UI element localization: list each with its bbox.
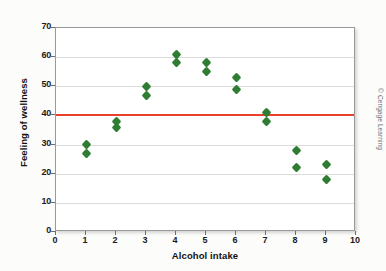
x-tick-label: 1: [75, 235, 95, 245]
x-tick-label: 10: [345, 235, 365, 245]
figure-root: 010203040506070 012345678910 Alcohol int…: [0, 0, 386, 271]
x-tick-mark: [115, 231, 116, 235]
x-tick-mark: [355, 231, 356, 235]
x-tick-label: 3: [135, 235, 155, 245]
x-tick-mark: [295, 231, 296, 235]
x-tick-label: 5: [195, 235, 215, 245]
x-tick-mark: [325, 231, 326, 235]
x-tick-label: 7: [255, 235, 275, 245]
credit-line: © Cengage Learning: [377, 88, 384, 150]
x-tick-label: 2: [105, 235, 125, 245]
x-tick-label: 4: [165, 235, 185, 245]
x-tick-label: 0: [45, 235, 65, 245]
x-tick-mark: [55, 231, 56, 235]
x-tick-mark: [205, 231, 206, 235]
x-tick-label: 8: [285, 235, 305, 245]
x-tick-mark: [85, 231, 86, 235]
x-tick-mark: [265, 231, 266, 235]
x-tick-mark: [235, 231, 236, 235]
x-axis-title: Alcohol intake: [55, 250, 355, 261]
x-tick-mark: [145, 231, 146, 235]
y-axis-title: Feeling of wellness: [18, 53, 29, 193]
x-axis-tick-labels: 012345678910: [0, 0, 386, 271]
x-tick-label: 6: [225, 235, 245, 245]
x-tick-mark: [175, 231, 176, 235]
x-tick-label: 9: [315, 235, 335, 245]
